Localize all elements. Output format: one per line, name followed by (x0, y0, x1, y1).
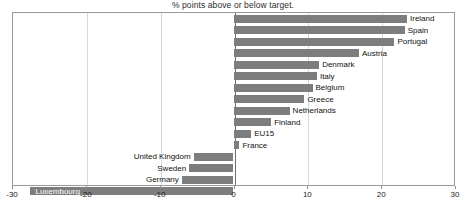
x-tick-mark (12, 186, 13, 189)
bar-label: Belgium (316, 82, 345, 93)
bar-row: Ireland (12, 13, 455, 25)
bar[interactable] (234, 49, 360, 57)
x-tick-label: -20 (80, 190, 92, 200)
x-tick-mark (381, 186, 382, 189)
bars-layer: IrelandSpainPortugalAustriaDenmarkItalyB… (12, 12, 455, 186)
bar-row: Belgium (12, 82, 455, 94)
bar-label: Italy (320, 71, 335, 82)
bar-label: United Kingdom (134, 151, 191, 162)
bar-label: Germany (146, 174, 179, 185)
bar[interactable] (234, 141, 240, 149)
bar-label: Ireland (410, 13, 434, 24)
bar-row: Austria (12, 48, 455, 60)
x-axis: -30-20-100102030 (12, 186, 455, 206)
chart-title: % points above or below target. (0, 0, 466, 11)
x-tick-mark (307, 186, 308, 189)
bar-label: Netherlands (293, 105, 336, 116)
bar-row: Spain (12, 25, 455, 37)
bar-row: Netherlands (12, 105, 455, 117)
bar-label: Portugal (397, 36, 427, 47)
bar-row: Germany (12, 174, 455, 186)
bar-label: Spain (408, 25, 428, 36)
bar-row: Finland (12, 117, 455, 129)
bar-label: France (242, 140, 267, 151)
x-tick-label: 20 (377, 190, 386, 200)
bar-row: Portugal (12, 36, 455, 48)
bar-label: Denmark (322, 59, 354, 70)
x-tick-mark (455, 186, 456, 189)
x-tick-mark (86, 186, 87, 189)
bar[interactable] (234, 95, 305, 103)
bar-row: Italy (12, 71, 455, 83)
bar-label: Sweden (157, 163, 186, 174)
x-tick-mark (234, 186, 235, 189)
x-tick-label: -30 (6, 190, 18, 200)
bar-row: EU15 (12, 128, 455, 140)
bar-label: Finland (274, 117, 300, 128)
bar-label: Greece (307, 94, 333, 105)
bar[interactable] (234, 118, 272, 126)
bar[interactable] (234, 72, 317, 80)
x-tick-label: 30 (451, 190, 460, 200)
bar[interactable] (234, 15, 408, 23)
x-tick-label: -10 (154, 190, 166, 200)
bar-label: Austria (362, 48, 387, 59)
chart-container: % points above or below target. IrelandS… (0, 0, 466, 206)
bar-row: France (12, 140, 455, 152)
x-tick-label: 10 (303, 190, 312, 200)
bar[interactable] (234, 61, 320, 69)
bar[interactable] (234, 26, 405, 34)
bar[interactable] (194, 153, 234, 161)
bar-row: Greece (12, 94, 455, 106)
bar-row: Sweden (12, 163, 455, 175)
x-tick-label: 0 (231, 190, 235, 200)
bar-label: EU15 (254, 128, 274, 139)
bar-row: United Kingdom (12, 151, 455, 163)
x-tick-mark (160, 186, 161, 189)
bar[interactable] (234, 84, 313, 92)
bar[interactable] (189, 164, 233, 172)
bar[interactable] (234, 38, 395, 46)
bar[interactable] (234, 130, 252, 138)
bar[interactable] (234, 107, 290, 115)
bar-row: Denmark (12, 59, 455, 71)
bar[interactable] (182, 176, 234, 184)
